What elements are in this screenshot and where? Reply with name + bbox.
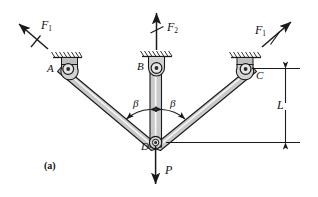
angle-label-beta-right: β <box>170 97 175 109</box>
truss-figure: F1 F2 F1 P A B C D β β L (a) <box>0 0 318 197</box>
force-arrow-F1-right <box>262 22 291 47</box>
angle-arc-beta-left <box>127 110 151 120</box>
joint-label-D: D <box>141 140 149 152</box>
force-label-F1-left: F1 <box>41 18 52 33</box>
force-label-F2: F2 <box>167 20 178 35</box>
support-B <box>141 51 173 76</box>
joint-label-B: B <box>137 60 144 72</box>
angle-label-beta-left: β <box>133 97 138 109</box>
angle-arc-beta-right <box>162 110 185 120</box>
force-label-F1-right: F1 <box>255 23 266 38</box>
support-A <box>52 52 83 80</box>
dimension-label-L: L <box>277 98 284 113</box>
joint-label-A: A <box>47 62 54 74</box>
figure-caption: (a) <box>44 160 56 171</box>
force-arrow-F2 <box>151 13 164 50</box>
force-label-P: P <box>165 163 172 178</box>
joint-label-C: C <box>256 69 263 81</box>
